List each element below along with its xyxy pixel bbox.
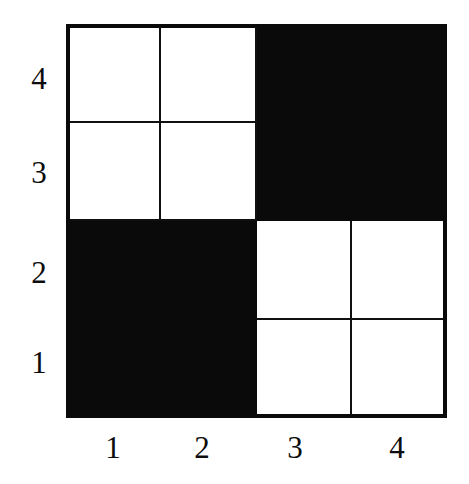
matrix-cell-r1-c4 [352,320,447,419]
quadrant-bottom-left [66,221,257,418]
matrix-cell-r4-c2 [161,24,256,123]
matrix-cell-r3-c2 [161,123,256,222]
y-tick-label-2: 2 [22,257,56,288]
matrix-cell-r3-c1 [66,123,161,222]
y-tick-label-4: 4 [22,63,56,94]
matrix-plot [66,24,447,418]
x-tick-label-1: 1 [93,432,133,463]
y-tick-label-1: 1 [22,347,56,378]
x-tick-label-3: 3 [275,432,315,463]
figure-canvas: 4 3 2 1 1 2 3 4 [0,0,469,484]
matrix-cell-r2-c4 [352,221,447,320]
x-tick-label-2: 2 [182,432,222,463]
quadrant-bottom-right [257,221,448,418]
matrix-cell-r4-c1 [66,24,161,123]
matrix-cell-r1-c3 [257,320,352,419]
matrix-cell-r2-c3 [257,221,352,320]
x-tick-label-4: 4 [377,432,417,463]
quadrant-top-right [257,24,448,221]
quadrant-top-left [66,24,257,221]
y-tick-label-3: 3 [22,157,56,188]
